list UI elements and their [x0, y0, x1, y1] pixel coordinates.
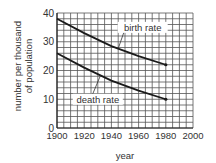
y-axis-label-line-2: of population — [23, 0, 34, 141]
x-tick-label: 1960 — [128, 130, 149, 141]
y-axis-label: number per thousand of population — [12, 0, 34, 141]
x-tick-label: 2000 — [182, 130, 203, 141]
x-tick-label: 1940 — [101, 130, 122, 141]
death-rate-label: death rate — [76, 94, 119, 105]
x-tick-label: 1900 — [46, 130, 67, 141]
x-tick-label: 1920 — [74, 130, 95, 141]
y-tick-label: 30 — [43, 36, 55, 47]
y-tick-label: 40 — [43, 8, 55, 19]
line-end-marker — [164, 63, 167, 66]
x-axis-label: year — [57, 150, 193, 161]
x-tick-label: 1980 — [155, 130, 176, 141]
line-end-marker — [164, 98, 167, 101]
annotation-leader — [118, 33, 123, 49]
y-tick-label: 10 — [43, 94, 55, 105]
y-tick-label: 20 — [43, 65, 55, 76]
annotation-leader — [93, 75, 101, 93]
birth-rate-label: birth rate — [124, 22, 162, 33]
y-axis-label-line-1: number per thousand — [12, 0, 23, 141]
